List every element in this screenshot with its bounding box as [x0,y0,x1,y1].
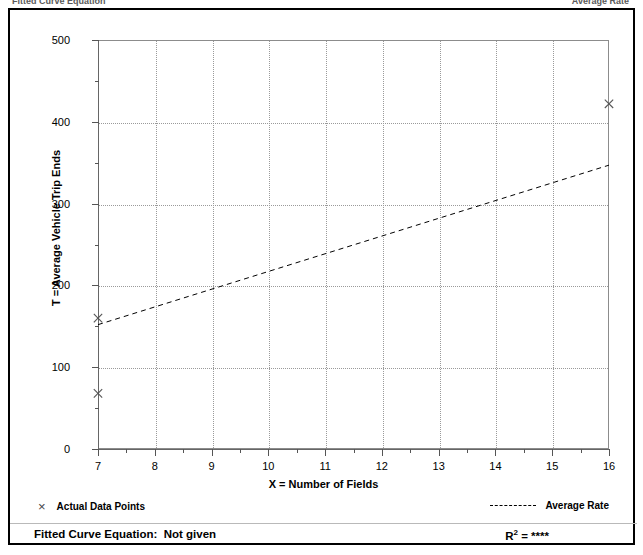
x-axis-minor-tick [297,449,298,453]
legend: × Actual Data Points Average Rate [10,500,637,522]
x-axis-tick-label: 9 [192,460,232,472]
legend-label-actual-data-points: Actual Data Points [57,501,145,512]
y-axis-tick-label: 500 [30,34,70,46]
x-axis-minor-tick [410,449,411,453]
x-axis-tick [382,449,383,456]
chart-figure-frame: 010020030040050078910111213141516 T = Av… [8,8,635,545]
r-squared-number: = **** [521,530,549,542]
x-axis-tick [155,449,156,456]
footer: Fitted Curve Equation: Not given R2 = **… [10,528,637,550]
legend-item-actual-data-points: × Actual Data Points [38,500,145,513]
page-header-right-text: Average Rate [572,0,629,6]
x-axis-tick-label: 7 [78,460,118,472]
x-axis-minor-tick [354,449,355,453]
y-axis-tick-label: 0 [30,443,70,455]
x-axis-minor-tick [524,449,525,453]
page-header-left-text: Fitted Curve Equation [12,0,106,6]
r-squared-exponent: 2 [514,528,518,537]
x-axis-minor-tick [183,449,184,453]
footer-divider [10,523,637,524]
x-axis-tick [268,449,269,456]
x-axis-title: X = Number of Fields [10,478,637,490]
y-axis-title: T = Average Vehicle Trip Ends [50,78,62,378]
x-axis-tick [212,449,213,456]
x-axis-tick-label: 12 [362,460,402,472]
x-axis-tick [98,449,99,456]
x-axis-minor-tick [467,449,468,453]
data-point-marker [605,100,613,108]
dashed-line-icon [490,505,536,506]
page-header-strip: Fitted Curve Equation Average Rate [0,0,643,7]
legend-item-average-rate: Average Rate [490,500,609,511]
x-axis-minor-tick [240,449,241,453]
x-axis-tick [325,449,326,456]
x-axis-tick-label: 14 [475,460,515,472]
x-axis-tick-label: 16 [589,460,629,472]
x-axis-tick [609,449,610,456]
x-axis-tick [439,449,440,456]
x-axis-tick-label: 11 [305,460,345,472]
legend-label-average-rate: Average Rate [545,500,609,511]
data-point-marker [94,314,102,322]
x-axis-tick-label: 10 [248,460,288,472]
series-overlay [98,40,609,449]
x-axis-tick-label: 8 [135,460,175,472]
trend-line-average-rate [98,165,609,325]
x-axis-tick [495,449,496,456]
x-axis-tick [552,449,553,456]
fitted-curve-equation: Fitted Curve Equation: Not given [34,528,216,540]
x-axis-minor-tick [126,449,127,453]
x-axis-tick-label: 13 [419,460,459,472]
data-point-marker [94,389,102,397]
r-squared-symbol: R [505,530,513,542]
x-axis-minor-tick [581,449,582,453]
cross-marker-icon: × [38,500,46,513]
x-axis-tick-label: 15 [532,460,572,472]
r-squared-value: R2 = **** [505,528,549,542]
